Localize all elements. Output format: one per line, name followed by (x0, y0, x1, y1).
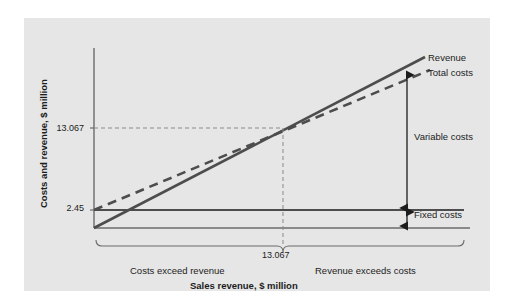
revenue-line (94, 57, 425, 228)
region-label-revenue-exceeds-costs: Revenue exceeds costs (315, 266, 416, 276)
y-tick-label-fixed-costs: 2.45 (34, 204, 84, 213)
annotation-fixed-costs: Fixed costs (414, 210, 462, 220)
y-axis-title: Costs and revenue, $ million (39, 79, 49, 208)
break-even-chart (24, 18, 490, 291)
figure-card: Costs and revenue, $ million Sales reven… (24, 18, 490, 291)
series-label-total-costs: Total costs (428, 68, 473, 78)
series-label-revenue: Revenue (428, 53, 466, 63)
annotation-variable-costs: Variable costs (414, 132, 473, 142)
y-tick-label-break-even: 13.067 (34, 124, 84, 133)
region-label-costs-exceed-revenue: Costs exceed revenue (130, 266, 225, 276)
x-tick-label-break-even: 13.067 (262, 251, 290, 260)
x-axis-title: Sales revenue, $ million (190, 281, 298, 291)
